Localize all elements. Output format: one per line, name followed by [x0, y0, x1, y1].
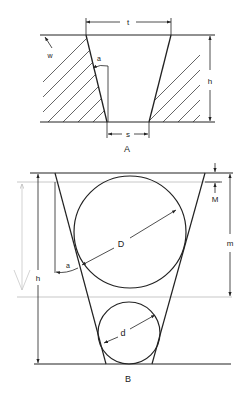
label-m: m: [227, 239, 234, 248]
dimension-d-b: [130, 315, 155, 329]
groove-wall-left: [86, 35, 107, 122]
label-a-a: a: [97, 55, 101, 62]
dimension-d-a: [104, 337, 118, 343]
angle-w-indicator: [45, 37, 52, 48]
caption-a: A: [124, 144, 130, 154]
label-t: t: [127, 18, 130, 27]
label-d: d: [120, 328, 125, 338]
dimension-D-a: [82, 248, 114, 265]
caption-b: B: [125, 374, 131, 384]
small-circle: [98, 302, 160, 364]
groove-wall-right: [149, 35, 171, 122]
angle-arc-a: [93, 65, 108, 68]
dimension-D-b: [130, 210, 176, 238]
label-a-b: a: [66, 262, 70, 269]
label-h-b: h: [36, 274, 40, 283]
large-circle: [74, 176, 186, 288]
label-D: D: [118, 239, 125, 249]
label-s: s: [126, 130, 130, 139]
label-h-a: h: [208, 77, 212, 86]
label-w: w: [46, 52, 53, 59]
diagram-canvas: t h s a w A D d h m: [0, 0, 248, 395]
label-M: M: [212, 195, 219, 204]
